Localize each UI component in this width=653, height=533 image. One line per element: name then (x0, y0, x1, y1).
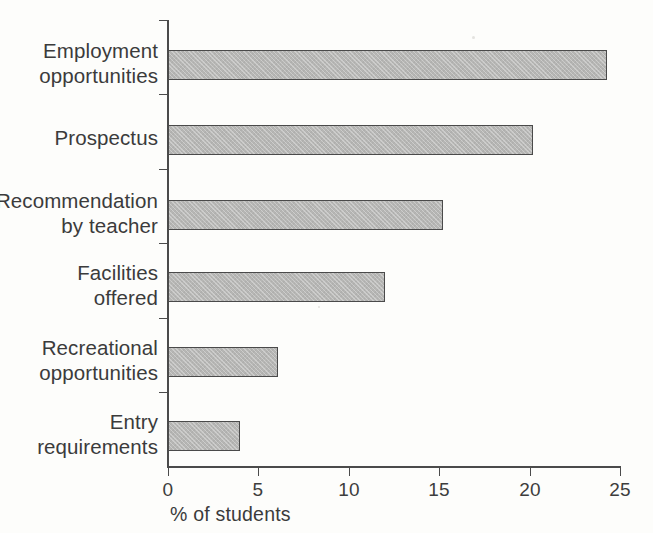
bar-employment-opportunities (168, 50, 607, 80)
bar-recreational-opportunities (168, 347, 278, 377)
x-axis-tick (439, 467, 440, 476)
x-axis-tick-label: 5 (253, 479, 264, 501)
category-label-line: offered (0, 285, 158, 310)
bar-recommendation-by-teacher (168, 200, 443, 230)
x-axis-tick (620, 467, 621, 476)
y-axis-tick (159, 94, 168, 95)
bar-facilities-offered (168, 272, 385, 302)
x-axis-tick-label: 20 (519, 479, 541, 501)
bar-entry-requirements (168, 421, 240, 451)
y-axis-tick (159, 243, 168, 244)
bar-chart: Employment opportunities Prospectus Reco… (0, 0, 653, 533)
category-label-line: Entry (0, 409, 158, 434)
plot-area (168, 20, 620, 467)
category-label-line: Employment (0, 38, 158, 63)
category-label-facilities-offered: Facilities offered (0, 260, 158, 310)
x-axis-tick-label: 25 (609, 479, 631, 501)
x-axis-tick-label: 15 (428, 479, 450, 501)
category-label-line: Recreational (0, 335, 158, 360)
x-axis-title: % of students (170, 503, 291, 526)
y-axis-tick (159, 20, 168, 21)
category-label-line: requirements (0, 434, 158, 459)
category-label-line: Prospectus (0, 125, 158, 150)
y-axis-tick (159, 318, 168, 319)
y-axis-tick (159, 392, 168, 393)
category-label-line: opportunities (0, 360, 158, 385)
category-label-entry-requirements: Entry requirements (0, 409, 158, 459)
x-axis-tick (258, 467, 259, 476)
x-axis-tick (168, 467, 169, 476)
category-label-line: opportunities (0, 63, 158, 88)
category-label-prospectus: Prospectus (0, 125, 158, 150)
x-axis-tick-label: 10 (338, 479, 360, 501)
x-axis-tick (349, 467, 350, 476)
x-axis-tick (530, 467, 531, 476)
category-label-employment-opportunities: Employment opportunities (0, 38, 158, 88)
category-label-line: by teacher (0, 213, 158, 238)
bar-prospectus (168, 125, 533, 155)
y-axis-tick (159, 169, 168, 170)
x-axis-tick-label: 0 (163, 479, 174, 501)
category-label-recommendation-by-teacher: Recommendation by teacher (0, 188, 158, 238)
category-label-line: Facilities (0, 260, 158, 285)
category-label-line: Recommendation (0, 188, 158, 213)
category-label-recreational-opportunities: Recreational opportunities (0, 335, 158, 385)
